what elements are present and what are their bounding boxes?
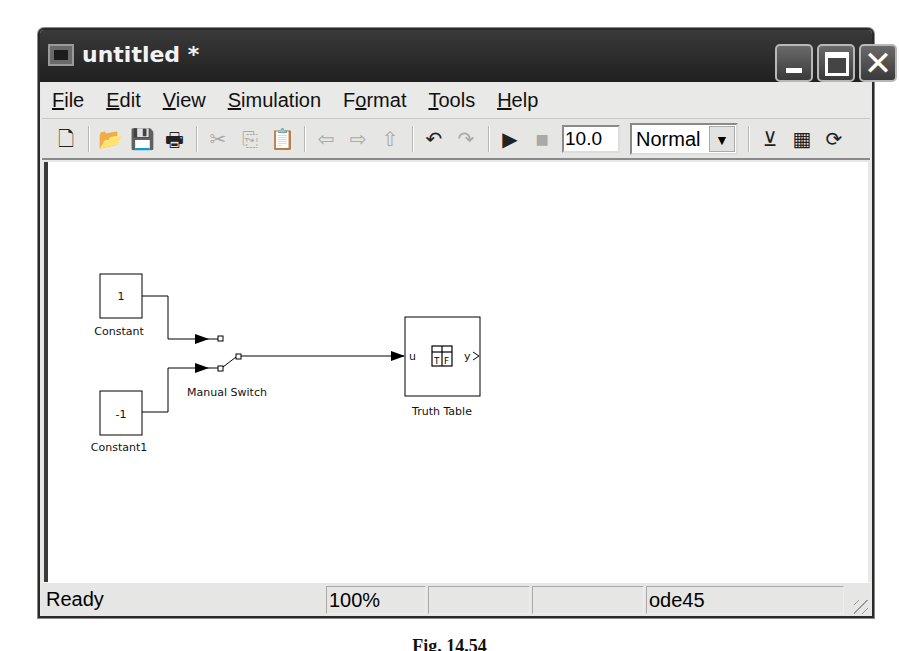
status-text: Ready <box>44 586 324 614</box>
menu-view[interactable]: View <box>163 89 206 112</box>
menu-tools[interactable]: Tools <box>428 89 475 112</box>
redo-icon[interactable]: ↷ <box>454 127 478 151</box>
constant1-block[interactable]: -1 Constant1 <box>91 391 147 454</box>
menu-bar: File Edit View Simulation Format Tools H… <box>42 83 870 119</box>
model-canvas[interactable]: 1 Constant -1 Constant1 Manual Switch <box>44 162 868 582</box>
toolbar-separator <box>412 126 414 152</box>
menu-file[interactable]: File <box>52 89 84 112</box>
close-button[interactable]: ✕ <box>859 44 897 82</box>
new-model-icon[interactable]: 🗋 <box>54 127 78 151</box>
title-bar[interactable]: untitled * ✕ <box>40 30 872 82</box>
svg-text:Manual Switch: Manual Switch <box>187 386 267 399</box>
minimize-button[interactable] <box>775 44 813 82</box>
svg-text:u: u <box>409 350 416 363</box>
solver-name: ode45 <box>646 586 844 614</box>
open-folder-icon[interactable]: 📂 <box>98 127 122 151</box>
status-cell-empty <box>428 586 530 614</box>
simulink-app-icon <box>48 44 74 66</box>
menu-format[interactable]: Format <box>343 89 406 112</box>
copy-icon[interactable]: ⎘ <box>238 127 262 151</box>
svg-text:T: T <box>433 356 440 366</box>
maximize-button[interactable] <box>817 44 855 82</box>
menu-edit[interactable]: Edit <box>106 89 140 112</box>
truth-table-icon: T F <box>432 346 452 366</box>
toolbar-separator <box>304 126 306 152</box>
block-diagram: 1 Constant -1 Constant1 Manual Switch <box>48 162 868 582</box>
refresh-model-icon[interactable]: ⟳ <box>822 127 846 151</box>
toolbar: 🗋 📂 💾 🖶 ✂ ⎘ 📋 ⇦ ⇨ ⇧ ↶ ↷ ▶ ■ 10.0 Normal … <box>42 120 870 160</box>
minimize-icon <box>786 68 802 73</box>
simulation-mode-value: Normal <box>636 128 700 150</box>
library-browser-icon[interactable]: ▦ <box>790 127 814 151</box>
chevron-down-icon[interactable]: ▼ <box>709 126 735 152</box>
print-icon[interactable]: 🖶 <box>162 127 186 151</box>
toolbar-separator <box>196 126 198 152</box>
paste-icon[interactable]: 📋 <box>270 127 294 151</box>
toolbar-separator <box>748 126 750 152</box>
truth-table-block[interactable]: u y T F Truth Table <box>405 317 480 418</box>
build-model-icon[interactable]: ⊻ <box>758 127 782 151</box>
signal-line[interactable] <box>142 296 208 339</box>
status-cell-empty <box>532 586 644 614</box>
svg-text:1: 1 <box>118 290 125 303</box>
svg-text:Truth Table: Truth Table <box>411 405 472 418</box>
undo-icon[interactable]: ↶ <box>422 127 446 151</box>
save-icon[interactable]: 💾 <box>130 127 154 151</box>
toolbar-separator <box>488 126 490 152</box>
simulink-model-window: untitled * ✕ File Edit View Simulation F… <box>38 28 874 618</box>
back-arrow-icon[interactable]: ⇦ <box>314 127 338 151</box>
menu-help[interactable]: Help <box>497 89 538 112</box>
zoom-level: 100% <box>326 586 426 614</box>
svg-text:F: F <box>444 356 449 366</box>
menu-simulation[interactable]: Simulation <box>228 89 321 112</box>
svg-text:Constant1: Constant1 <box>91 441 147 454</box>
resize-grip-icon[interactable] <box>854 600 868 614</box>
constant-block[interactable]: 1 Constant <box>94 274 144 338</box>
maximize-icon <box>825 52 849 76</box>
up-arrow-icon[interactable]: ⇧ <box>378 127 402 151</box>
simulation-mode-select[interactable]: Normal ▼ <box>630 123 738 155</box>
cut-icon[interactable]: ✂ <box>206 127 230 151</box>
stop-time-input[interactable]: 10.0 <box>562 125 620 153</box>
status-bar: Ready 100% ode45 <box>42 582 870 616</box>
figure-caption: Fig. 14.54 <box>0 636 899 651</box>
toolbar-separator <box>88 126 90 152</box>
close-icon: ✕ <box>861 44 895 82</box>
svg-text:Constant: Constant <box>94 325 144 338</box>
stop-simulation-icon[interactable]: ■ <box>530 127 554 151</box>
svg-text:-1: -1 <box>116 408 127 421</box>
window-title: untitled * <box>82 42 199 67</box>
start-simulation-icon[interactable]: ▶ <box>498 127 522 151</box>
forward-arrow-icon[interactable]: ⇨ <box>346 127 370 151</box>
svg-text:y: y <box>464 350 471 363</box>
